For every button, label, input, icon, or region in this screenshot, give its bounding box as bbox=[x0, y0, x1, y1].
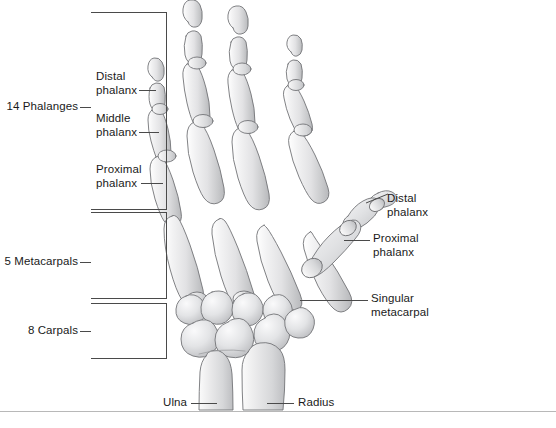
label-carpals-count: 8 Carpals bbox=[0, 324, 78, 338]
leader-singular-metacarpal bbox=[300, 300, 368, 301]
label-distal-phalanx: Distal phalanx bbox=[96, 70, 137, 97]
label-proximal-phalanx: Proximal phalanx bbox=[96, 163, 142, 190]
label-ulna: Ulna bbox=[163, 396, 187, 410]
label-phalanges-count: 14 Phalanges bbox=[0, 100, 78, 114]
footer-divider bbox=[0, 411, 556, 412]
hand-skeleton-illustration bbox=[0, 0, 556, 428]
leader-radius bbox=[267, 403, 294, 404]
leader-distal-phalanx bbox=[139, 90, 156, 91]
bracket-carpals-tick bbox=[80, 331, 91, 332]
label-radius: Radius bbox=[298, 396, 334, 410]
leader-proximal-phalanx-thumb bbox=[344, 240, 370, 241]
hand-skeleton-figure: 14 Phalanges 5 Metacarpals 8 Carpals Dis… bbox=[0, 0, 556, 428]
label-singular-metacarpal: Singular metacarpal bbox=[371, 292, 429, 319]
credit-container: © Cengage Learning 2014 bbox=[534, 300, 546, 410]
leader-ulna bbox=[191, 403, 217, 404]
label-distal-phalanx-thumb: Distal phalanx bbox=[387, 192, 428, 219]
label-metacarpals-count: 5 Metacarpals bbox=[0, 255, 78, 269]
bracket-carpals bbox=[91, 303, 167, 359]
bracket-phalanges-tick bbox=[80, 107, 91, 108]
leader-distal-phalanx-thumb-line bbox=[366, 192, 390, 206]
bracket-metacarpals-tick bbox=[80, 262, 91, 263]
leader-middle-phalanx bbox=[139, 132, 159, 133]
label-proximal-phalanx-thumb: Proximal phalanx bbox=[373, 232, 419, 259]
bracket-metacarpals bbox=[91, 212, 167, 299]
leader-proximal-phalanx bbox=[141, 183, 163, 184]
label-middle-phalanx: Middle phalanx bbox=[96, 112, 137, 139]
